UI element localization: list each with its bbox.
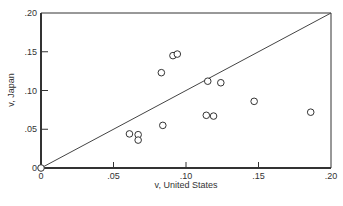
scatter-chart: 0.05.10.15.20 0.05.10.15.20 v, United St… — [0, 0, 343, 206]
y-axis-title: v, Japan — [6, 73, 16, 106]
data-point-marker — [307, 109, 314, 116]
x-tick-label: 0 — [38, 171, 43, 181]
data-point-marker — [218, 79, 225, 86]
data-point-marker — [135, 137, 142, 144]
data-point-marker — [203, 112, 210, 119]
reference-line-y-equals-x — [41, 13, 331, 168]
data-point-marker — [204, 78, 211, 85]
x-tick-label: .15 — [252, 171, 265, 181]
x-axis-title: v, United States — [155, 180, 218, 190]
data-point-marker — [251, 98, 258, 105]
data-point-marker — [160, 122, 167, 129]
y-tick-labels: 0.05.10.15.20 — [24, 8, 37, 173]
x-tick-label: .20 — [325, 171, 338, 181]
data-point-marker — [210, 113, 217, 120]
y-tick-label: 0 — [32, 163, 37, 173]
y-tick-label: .05 — [24, 124, 37, 134]
data-point-marker — [126, 131, 133, 138]
diagonal-line — [41, 13, 331, 168]
data-points — [38, 51, 314, 172]
y-tick-label: .20 — [24, 8, 37, 18]
y-tick-label: .10 — [24, 86, 37, 96]
data-point-marker — [174, 51, 181, 58]
y-tick-label: .15 — [24, 47, 37, 57]
x-tick-label: .05 — [107, 171, 120, 181]
data-point-marker — [158, 69, 165, 76]
